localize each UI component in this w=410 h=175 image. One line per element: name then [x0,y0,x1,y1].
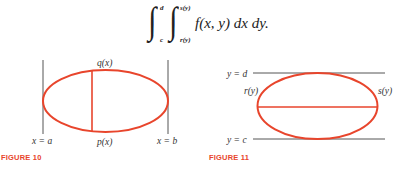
label-y-eq-c: y = c [226,135,247,145]
label-r: r(y) [244,86,258,97]
label-x-eq-a: x = a [31,136,52,146]
figure-10-caption: FIGURE 10 [1,153,42,162]
region-ellipse [43,70,168,132]
label-x-eq-b: x = b [156,136,177,146]
figure-10: q(x) p(x) x = a x = b FIGURE 10 [1,58,177,162]
figures-canvas: q(x) p(x) x = a x = b FIGURE 10 y = d y … [0,0,410,175]
region-ellipse [258,73,378,139]
figure-11-caption: FIGURE 11 [209,153,249,162]
label-s: s(y) [378,86,392,97]
label-q: q(x) [97,58,112,69]
label-p: p(x) [96,137,112,148]
figure-11: y = d y = c r(y) s(y) FIGURE 11 [209,69,392,162]
label-y-eq-d: y = d [226,69,247,79]
